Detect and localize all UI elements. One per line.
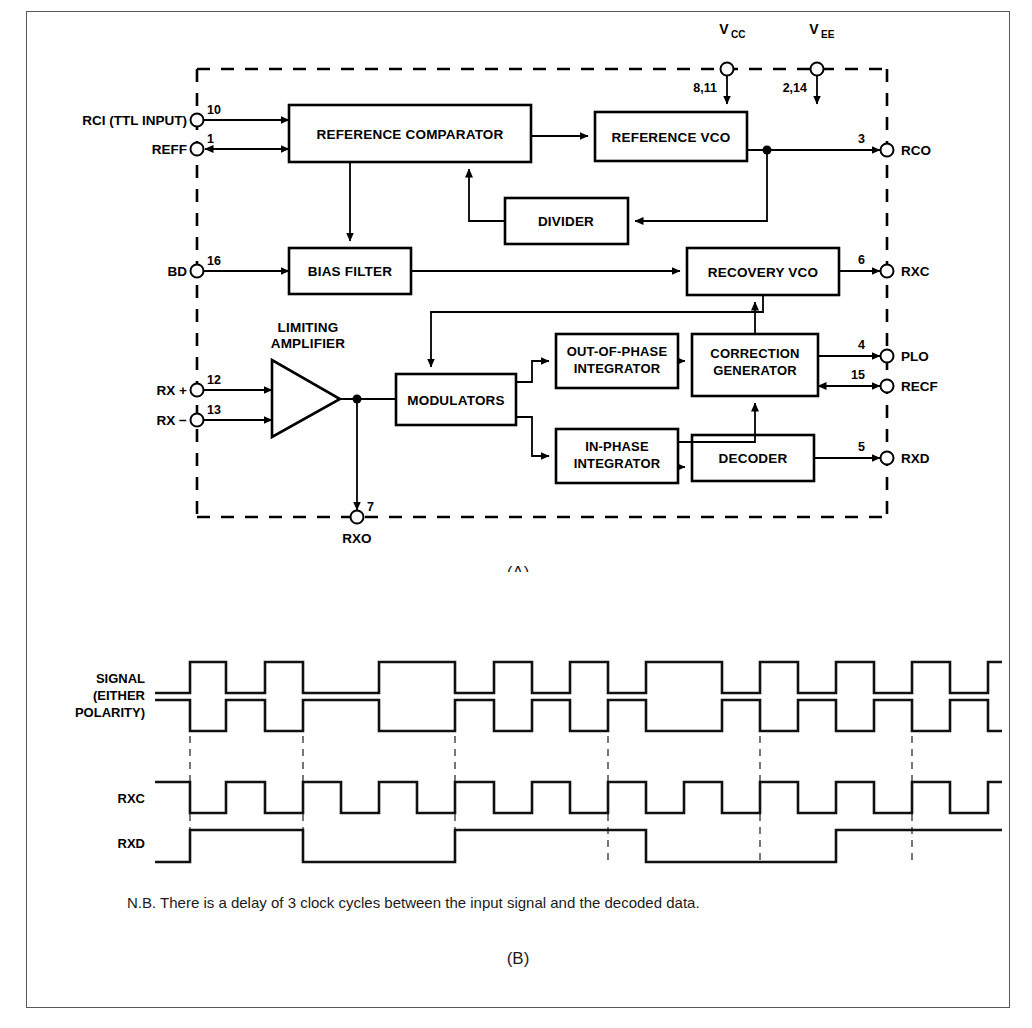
part-b-label: (B): [507, 949, 530, 968]
block-label-correction-line2: GENERATOR: [713, 363, 797, 378]
pin-circle-recf[interactable]: [881, 380, 894, 393]
supply-label-vcc: V: [719, 21, 729, 37]
waveform-trace-signal-inverted: [155, 700, 1002, 731]
block-label-out-of-phase-line2: INTEGRATOR: [574, 361, 661, 376]
pin-circle-rx-plus[interactable]: [191, 384, 204, 397]
supply-vcc[interactable]: V CC 8,11: [693, 21, 745, 104]
pin-number-rxd: 5: [858, 440, 865, 454]
pin-circle-plo[interactable]: [881, 350, 894, 363]
block-label-correction-line1: CORRECTION: [710, 346, 799, 361]
block-bias-filter: BIAS FILTER: [289, 248, 411, 294]
pin-number-recf: 15: [851, 368, 865, 382]
waveform-path: [155, 662, 1002, 693]
pin-number-rco: 3: [858, 132, 865, 146]
block-reference-comparator: REFERENCE COMPARATOR: [289, 105, 531, 162]
pin-label-reff: REFF: [152, 142, 187, 157]
waveform-labels: SIGNAL (EITHER POLARITY) RXC RXD: [75, 671, 146, 851]
pin-reff[interactable]: REFF 1: [152, 132, 289, 157]
block-label-decoder: DECODER: [719, 451, 788, 466]
pin-rxc[interactable]: RXC 6: [839, 253, 930, 279]
alignment-marks: [190, 736, 912, 865]
pin-number-plo: 4: [858, 338, 865, 352]
pin-number-bd: 16: [207, 254, 221, 268]
pin-label-rco: RCO: [901, 143, 931, 158]
waveform-trace-rxd: [155, 830, 1002, 862]
pin-label-rx-minus: RX −: [157, 413, 188, 428]
figure-frame: REFERENCE COMPARATOR REFERENCE VCO DIVID…: [26, 11, 1010, 1008]
waveform-label-signal-line3: POLARITY): [75, 705, 145, 720]
supply-subscript-vcc: CC: [731, 29, 745, 40]
pin-bd[interactable]: BD 16: [168, 254, 290, 279]
supply-subscript-vee: EE: [821, 29, 835, 40]
block-modulators: MODULATORS: [396, 374, 516, 425]
amplifier-label-line2: AMPLIFIER: [271, 336, 346, 351]
block-recovery-vco: RECOVERY VCO: [687, 248, 839, 295]
waveform-label-rxc: RXC: [118, 791, 146, 806]
waveform-path: [155, 782, 1002, 813]
block-divider: DIVIDER: [505, 198, 628, 244]
waveform-path: [155, 830, 1002, 862]
waveform-label-signal-line1: SIGNAL: [96, 671, 145, 686]
amplifier-label-line1: LIMITING: [278, 320, 339, 335]
block-diagram: REFERENCE COMPARATOR REFERENCE VCO DIVID…: [27, 12, 1009, 572]
pin-number-rxc: 6: [858, 253, 865, 267]
pin-number-rci: 10: [207, 103, 221, 117]
part-a-label: (A): [507, 563, 530, 572]
pin-label-recf: RECF: [901, 379, 938, 394]
pin-label-rxo: RXO: [342, 531, 371, 546]
waveform-trace-signal: [155, 662, 1002, 693]
block-label-reference-vco: REFERENCE VCO: [612, 130, 731, 145]
pin-number-reff: 1: [207, 132, 214, 146]
waveform-label-rxd: RXD: [118, 836, 145, 851]
block-label-modulators: MODULATORS: [407, 393, 505, 408]
pin-rxd[interactable]: RXD 5: [814, 440, 930, 466]
pin-rx-plus[interactable]: RX + 12: [157, 373, 272, 398]
block-label-reference-comparator: REFERENCE COMPARATOR: [316, 127, 503, 142]
block-label-bias-filter: BIAS FILTER: [308, 264, 392, 279]
pin-number-rx-plus: 12: [207, 373, 221, 387]
pin-label-rxc: RXC: [901, 264, 930, 279]
waveform-diagram: SIGNAL (EITHER POLARITY) RXC RXD N.B. Th…: [27, 590, 1009, 1010]
block-label-recovery-vco: RECOVERY VCO: [708, 265, 818, 280]
waveform-path: [155, 700, 1002, 731]
supply-pins-vcc: 8,11: [693, 81, 717, 95]
junction-dot-limamp: [353, 395, 362, 404]
note-text: N.B. There is a delay of 3 clock cycles …: [127, 894, 700, 911]
supply-label-vee: V: [809, 21, 819, 37]
pin-label-plo: PLO: [901, 349, 929, 364]
block-out-of-phase-integrator: OUT-OF-PHASE INTEGRATOR: [556, 334, 678, 388]
pin-recf[interactable]: RECF 15: [818, 368, 938, 394]
block-in-phase-integrator: IN-PHASE INTEGRATOR: [556, 429, 678, 483]
pin-circle-rci[interactable]: [191, 114, 204, 127]
pin-label-rx-plus: RX +: [157, 383, 188, 398]
waveform-label-signal-line2: (EITHER: [93, 688, 146, 703]
supply-vee[interactable]: V EE 2,14: [783, 21, 835, 104]
block-correction-generator: CORRECTION GENERATOR: [692, 334, 818, 396]
pin-circle-vcc[interactable]: [721, 63, 734, 76]
pin-circle-vee[interactable]: [811, 63, 824, 76]
pin-rco[interactable]: RCO 3: [747, 132, 931, 158]
pin-circle-rco[interactable]: [881, 144, 894, 157]
pin-label-bd: BD: [168, 264, 188, 279]
pin-rxo[interactable]: 7 RXO: [342, 399, 374, 546]
pin-rx-minus[interactable]: RX − 13: [157, 403, 272, 428]
pin-circle-rx-minus[interactable]: [191, 414, 204, 427]
block-label-divider: DIVIDER: [538, 214, 594, 229]
block-label-in-phase-line2: INTEGRATOR: [574, 456, 661, 471]
pin-number-rx-minus: 13: [207, 403, 221, 417]
block-label-out-of-phase-line1: OUT-OF-PHASE: [567, 344, 668, 359]
pin-rci[interactable]: RCI (TTL INPUT) 10: [82, 103, 289, 128]
supply-pins-vee: 2,14: [783, 81, 807, 95]
pin-circle-reff[interactable]: [191, 143, 204, 156]
pin-circle-rxd[interactable]: [881, 452, 894, 465]
block-reference-vco: REFERENCE VCO: [595, 112, 747, 161]
block-label-in-phase-line1: IN-PHASE: [585, 439, 649, 454]
pin-number-rxo: 7: [367, 500, 374, 514]
pin-circle-rxo[interactable]: [351, 511, 364, 524]
waveform-trace-rxc: [155, 782, 1002, 813]
pin-label-rxd: RXD: [901, 451, 930, 466]
limiting-amplifier: LIMITING AMPLIFIER: [271, 320, 346, 437]
pin-circle-bd[interactable]: [191, 265, 204, 278]
pin-circle-rxc[interactable]: [881, 265, 894, 278]
pin-plo[interactable]: PLO 4: [818, 338, 929, 364]
